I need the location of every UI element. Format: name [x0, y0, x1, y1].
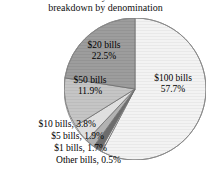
slice-label-20-bills: $20 bills 22.5% [75, 40, 133, 61]
slice-label-20-bills-name: $20 bills [75, 40, 133, 51]
slice-label-100-bills-pct: 57.7% [140, 84, 206, 95]
slice-label-100-bills: $100 bills 57.7% [140, 73, 206, 94]
chart-title: Total currency in circulation breakdown … [0, 0, 211, 13]
slice-label-50-bills-pct: 11.9% [62, 86, 118, 97]
slice-label-50-bills-name: $50 bills [62, 75, 118, 86]
slice-label-other-bills: Other bills, 0.5% [0, 154, 121, 166]
chart-title-line-2: breakdown by denomination [0, 2, 211, 13]
pie-chart-screenshot: Total currency in circulation breakdown … [0, 0, 211, 175]
slice-label-1-bills: $1 bills, 1.7% [0, 142, 107, 154]
slice-label-100-bills-name: $100 bills [140, 73, 206, 84]
slice-label-50-bills: $50 bills 11.9% [62, 75, 118, 96]
slice-label-5-bills: $5 bills, 1.9% [0, 130, 104, 142]
slice-label-10-bills: $10 bills, 3.8% [0, 118, 96, 130]
slice-label-20-bills-pct: 22.5% [75, 51, 133, 62]
